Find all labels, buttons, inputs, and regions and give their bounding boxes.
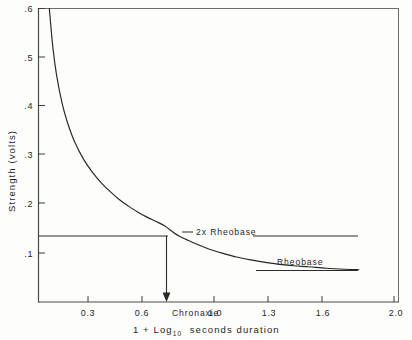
- x-axis-title: 1 + Log10 seconds duration: [133, 324, 280, 337]
- y-tick-label-0.4: .4: [24, 101, 33, 111]
- x-tick-label-1.3: 1.3: [262, 308, 276, 318]
- x-tick-label-0.6: 0.6: [135, 308, 149, 318]
- chronaxie-arrow-head: [163, 293, 171, 303]
- strength-duration-figure: .6 .5 .4 .3 .2 .1 0.3 0.6 1.0 1.3 1.6 2.…: [0, 0, 412, 340]
- x-tick-label-2.0: 2.0: [389, 308, 403, 318]
- y-axis-title: Strength (volts): [6, 130, 17, 212]
- x-axis-title-subscript: 10: [173, 330, 183, 337]
- x-tick-label-1.6: 1.6: [316, 308, 330, 318]
- y-tick-label-0.5: .5: [24, 53, 33, 63]
- y-tick-label-0.3: .3: [24, 150, 33, 160]
- x-axis-title-part2-spacer: [182, 324, 189, 335]
- y-tick-label-0.1: .1: [24, 249, 33, 259]
- x-tick-label-0.3: 0.3: [81, 308, 95, 318]
- x-axis-title-part2: seconds duration: [190, 324, 280, 335]
- x-tick-marks: [88, 296, 394, 302]
- x-axis-title-part1: 1 + Log: [133, 324, 173, 335]
- y-tick-label-0.6: .6: [24, 4, 33, 14]
- chronaxie-label: Chronaxie: [172, 308, 219, 318]
- two-x-rheobase-label: 2x Rheobase: [196, 227, 257, 237]
- chart-canvas: .6 .5 .4 .3 .2 .1 0.3 0.6 1.0 1.3 1.6 2.…: [0, 0, 412, 340]
- y-tick-label-0.2: .2: [24, 199, 33, 209]
- rheobase-label: Rheobase: [277, 257, 323, 267]
